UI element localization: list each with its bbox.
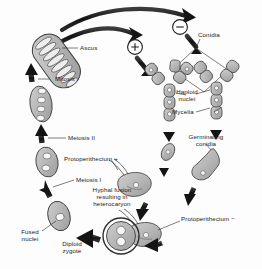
conidium-plus: [158, 141, 177, 163]
label-mycelia: Mycelia: [172, 108, 194, 115]
arrow-minus-to-mycelium: [187, 36, 202, 54]
leader-protoperithecium-minus: [158, 221, 180, 230]
label-meiosis-1: Meiosis I: [76, 176, 101, 183]
label-fused-nuclei: Fused nuclei: [14, 228, 46, 242]
label-haploid-nuclei: Haploid nuclei: [171, 88, 203, 102]
figure-canvas: Ascus Mitosis Meiosis II Meiosis I Fused…: [0, 0, 262, 269]
label-protoperithecium-minus: Protoperithecium −: [181, 215, 235, 222]
mating-type-minus-symbol: [173, 20, 188, 35]
leader-protoperithecium-plus: [112, 161, 118, 170]
label-diploid-zygote: Diploid zygote: [55, 240, 89, 254]
label-ascus: Ascus: [80, 44, 97, 51]
arrow-mycelium-plus-down: [163, 124, 175, 142]
mating-type-plus-symbol: [128, 40, 143, 55]
heterocaryon-cell: [103, 218, 139, 254]
arrow-germinating-conidium-down: [184, 188, 196, 206]
meiosis-1-product-cell: [34, 145, 61, 178]
diploid-zygote-cell: [44, 199, 73, 234]
label-meiosis-2: Meiosis II: [68, 134, 95, 141]
arrow-conidium-plus-down: [159, 163, 169, 177]
meiosis-2-product-cell: [28, 85, 55, 124]
label-protoperithecium-plus: Protoperithecium +: [64, 155, 118, 162]
label-germinating-conidia: Germinating conidia: [178, 133, 234, 147]
leader-meiosis-1: [53, 180, 74, 187]
arrow-mitosis: [25, 63, 38, 82]
label-conidia: Conidia: [198, 31, 220, 38]
germinating-conidium: [192, 149, 220, 180]
arrow-meiosis-1: [39, 180, 52, 197]
label-hyphal-fusion: Hyphal fusion resulting in heterocaryon: [85, 186, 139, 208]
arrow-meiosis-2: [35, 124, 48, 143]
label-mitosis: Mitosis: [55, 75, 75, 82]
ascus-structure: [26, 28, 86, 94]
